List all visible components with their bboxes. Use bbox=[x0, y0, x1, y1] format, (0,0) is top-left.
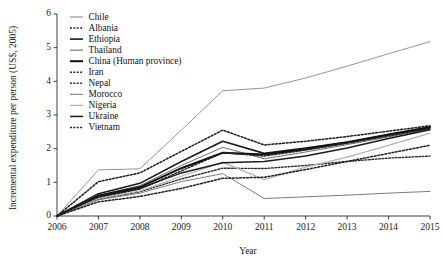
x-tick-label: 2007 bbox=[89, 222, 108, 232]
legend-label-ukraine: Ukraine bbox=[89, 111, 119, 121]
chart-legend: ChileAlbaniaEthiopiaThailandChina (Human… bbox=[70, 12, 181, 133]
y-tick-label: 5 bbox=[46, 42, 51, 52]
x-tick-label: 2015 bbox=[421, 222, 440, 232]
y-axis-title: Incremental expenditure per person (US$,… bbox=[8, 26, 19, 210]
y-axis-title-text: Incremental expenditure per person (US$,… bbox=[8, 26, 19, 210]
line-chart: Incremental expenditure per person (US$,… bbox=[0, 0, 443, 261]
x-tick-label: 2011 bbox=[255, 222, 274, 232]
y-tick-label: 4 bbox=[46, 76, 51, 86]
chart-figure: Incremental expenditure per person (US$,… bbox=[0, 0, 443, 261]
legend-label-chile: Chile bbox=[89, 12, 109, 22]
series-line-ukraine bbox=[57, 130, 430, 216]
legend-label-nepal: Nepal bbox=[89, 78, 112, 88]
y-tick-label: 2 bbox=[46, 143, 51, 153]
x-tick-label: 2012 bbox=[296, 222, 315, 232]
series-line-nigeria bbox=[57, 133, 430, 216]
series-line-vietnam bbox=[57, 145, 430, 216]
x-tick-label: 2009 bbox=[172, 222, 191, 232]
y-tick-label: 3 bbox=[46, 109, 51, 119]
x-axis-ticks: 2006200720082009201020112012201320142015 bbox=[48, 216, 440, 232]
y-tick-label: 0 bbox=[46, 210, 51, 220]
x-tick-label: 2010 bbox=[213, 222, 232, 232]
y-axis-ticks: 0123456 bbox=[46, 8, 57, 220]
x-tick-label: 2013 bbox=[338, 222, 357, 232]
legend-label-ethiopia: Ethiopia bbox=[89, 34, 121, 44]
x-tick-label: 2006 bbox=[48, 222, 67, 232]
x-tick-label: 2014 bbox=[379, 222, 398, 232]
legend-label-vietnam: Vietnam bbox=[89, 122, 121, 132]
x-tick-label: 2008 bbox=[130, 222, 149, 232]
x-axis-title-text: Year bbox=[239, 246, 257, 256]
legend-label-nigeria: Nigeria bbox=[89, 100, 117, 110]
series-line-china-human-province bbox=[57, 128, 430, 216]
legend-label-albania: Albania bbox=[89, 23, 118, 33]
legend-label-morocco: Morocco bbox=[89, 89, 123, 99]
legend-label-thailand: Thailand bbox=[89, 45, 122, 55]
y-tick-label: 6 bbox=[46, 8, 51, 18]
y-tick-label: 1 bbox=[46, 177, 51, 187]
legend-label-iran: Iran bbox=[89, 67, 104, 77]
legend-label-china-human-province: China (Human province) bbox=[89, 56, 182, 67]
